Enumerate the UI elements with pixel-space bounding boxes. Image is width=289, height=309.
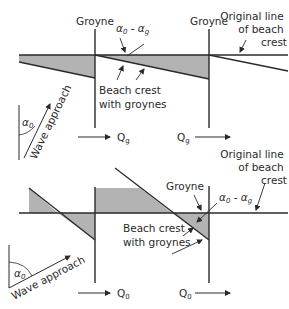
top-crest-segment-right (209, 55, 288, 71)
bottom-original-line-label: Original line of beach crest (220, 148, 287, 186)
groyne-diagram: Groyne Groyne α0 - αg Original line of b… (0, 0, 289, 309)
bottom-angle-label: α0 - αg (219, 191, 253, 205)
top-wave-approach-indicator: α0 Wave approach (19, 83, 73, 161)
top-diagram: Groyne Groyne α0 - αg Original line of b… (19, 10, 288, 161)
top-beach-crest-label: Beach crest with groynes (99, 84, 167, 110)
top-beach-crest-pointer-2 (136, 69, 144, 80)
bottom-groyne-pointer (194, 195, 201, 210)
top-beach-crest-pointer-1 (117, 66, 123, 80)
bottom-transport-label-right: Q0 (179, 287, 192, 301)
bottom-beach-crest-label: Beach crest with groynes (123, 222, 191, 248)
top-angle-pointer-2 (127, 44, 144, 56)
bottom-groyne-label: Groyne (166, 180, 204, 192)
top-angle-label: α0 - αg (116, 22, 150, 36)
bottom-wave-angle-label: α0 (14, 267, 26, 281)
top-wave-angle-label: α0 (22, 116, 34, 130)
top-shaded-region-left (19, 55, 95, 78)
bottom-shaded-region-middle-upper (95, 188, 172, 213)
bottom-wave-approach-indicator: α0 Wave approach (9, 245, 87, 302)
top-transport-label-right: Qg (177, 131, 190, 145)
top-wave-approach-label: Wave approach (27, 83, 73, 161)
top-original-line-label: Original line of beach crest (220, 10, 287, 48)
bottom-transport-label-left: Q0 (117, 287, 130, 301)
top-angle-pointer-1 (120, 38, 125, 52)
top-transport-label-left: Qg (117, 131, 130, 145)
bottom-original-line-pointer (256, 183, 265, 210)
bottom-diagram: Groyne α0 - αg Original line of beach cr… (9, 148, 288, 302)
top-groyne-left-label: Groyne (76, 15, 114, 27)
top-original-line-pointer (240, 40, 246, 52)
